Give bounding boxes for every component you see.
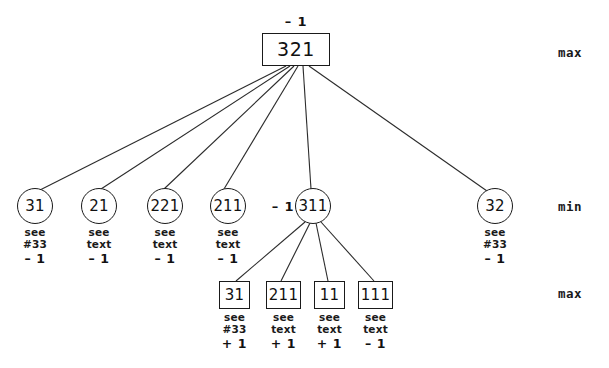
node-label: 311 [298,199,327,214]
node-label: 321 [277,40,315,59]
node-annotation: seetext– 1 [363,312,388,351]
annotation-line-2: text [363,324,388,336]
min-node-311: 311 [295,188,331,224]
annotation-line-2: text [317,324,342,336]
annotation-line-2: text [271,324,296,336]
min-node-31: 31 [17,188,53,224]
min-node-32: 32 [477,188,513,224]
node-label: 21 [89,199,109,214]
tree-edge [164,66,294,189]
node-label: 31 [25,199,45,214]
annotation-value: – 1 [87,252,112,266]
min-node-221: 221 [147,188,183,224]
annotation-value: – 1 [23,252,47,266]
annotation-line-2: #33 [23,239,47,251]
node-label: 111 [361,288,391,303]
node-annotation: see#33– 1 [483,227,507,266]
annotation-value: – 1 [153,252,178,266]
node-annotation: seetext+ 1 [317,312,342,351]
tree-edge [309,66,487,191]
node-annotation: see#33– 1 [23,227,47,266]
annotation-line-2: #33 [222,324,247,336]
node-annotation: seetext– 1 [87,227,112,266]
node-label: 211 [269,288,299,303]
leaf-node-11: 11 [314,281,345,309]
annotation-value: – 1 [216,252,241,266]
annotation-value: + 1 [271,337,296,351]
leaf-node-211: 211 [266,281,301,309]
tree-edge [224,66,298,189]
node-annotation: see#33+ 1 [222,312,247,351]
annotation-value: – 1 [483,252,507,266]
level-label-max-0: max [558,45,582,60]
annotation-line-2: #33 [483,239,507,251]
leaf-node-111: 111 [358,281,393,309]
min-node-21: 21 [81,188,117,224]
node-annotation: seetext– 1 [153,227,178,266]
root-node-321: 321 [262,33,330,66]
annotation-value: – 1 [363,337,388,351]
tree-edge [101,66,290,189]
tree-edge [236,222,305,281]
node-label: 211 [213,199,242,214]
annotation-value: + 1 [222,337,247,351]
node-label: 32 [485,199,505,214]
annotation-line-2: text [87,239,112,251]
tree-edge [40,66,286,190]
min-node-211: 211 [210,188,246,224]
annotation-line-2: text [153,239,178,251]
level-label-max-2: max [558,286,582,301]
tree-edge [321,222,374,281]
node-value-tag: – 1 [285,14,307,29]
node-value-tag: – 1 [272,199,294,214]
tree-edge [281,223,310,281]
node-label: 11 [320,288,340,303]
game-tree-diagram: 321– 131see#33– 121seetext– 1221seetext–… [0,0,609,368]
tree-edge [316,223,328,281]
leaf-node-31: 31 [219,281,250,309]
annotation-line-2: text [216,239,241,251]
node-label: 31 [225,288,245,303]
node-annotation: seetext+ 1 [271,312,296,351]
node-annotation: seetext– 1 [216,227,241,266]
tree-edge [303,66,311,189]
annotation-value: + 1 [317,337,342,351]
node-label: 221 [150,199,179,214]
level-label-min-1: min [558,199,582,214]
